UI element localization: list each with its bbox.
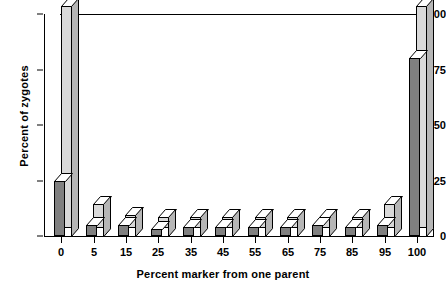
bar-front-cap-65: [280, 219, 300, 229]
bar-back-side-0: [71, 0, 80, 238]
bar-front-cap-45: [215, 219, 235, 229]
x-tick-mark-95: [385, 237, 386, 243]
x-tick-label-85: 85: [346, 246, 358, 258]
x-tick-label-0: 0: [58, 246, 64, 258]
x-tick-label-5: 5: [91, 246, 97, 258]
bar-front-cap-5: [86, 217, 106, 227]
bar-front-0: [54, 181, 65, 237]
bar-front-cap-15: [118, 217, 138, 227]
bar-front-cap-95: [377, 217, 397, 227]
x-tick-mark-45: [223, 237, 224, 243]
x-tick-label-35: 35: [185, 246, 197, 258]
y-tick-mark-0: [37, 236, 43, 237]
x-tick-mark-65: [288, 237, 289, 243]
bar-front-cap-85: [345, 219, 365, 229]
x-tick-mark-0: [61, 237, 62, 243]
y-tick-mark-50: [37, 125, 43, 126]
frame-top: [60, 14, 434, 15]
x-tick-label-55: 55: [249, 246, 261, 258]
axis-left-spine: [44, 14, 45, 237]
x-tick-mark-100: [417, 237, 418, 243]
x-tick-mark-35: [191, 237, 192, 243]
x-tick-label-100: 100: [408, 246, 426, 258]
x-tick-label-45: 45: [217, 246, 229, 258]
y-tick-mark-75: [37, 69, 43, 70]
x-tick-label-75: 75: [314, 246, 326, 258]
bar-chart: Percent of zygotes 100 75 50 25 0 051525…: [0, 0, 446, 293]
bar-face: [54, 181, 65, 237]
bar-back-side-100: [426, 0, 435, 238]
y-axis-title: Percent of zygotes: [18, 36, 30, 196]
bar-front-cap-75: [312, 217, 332, 227]
bar-front-100: [409, 58, 420, 236]
x-tick-label-65: 65: [282, 246, 294, 258]
x-tick-mark-75: [320, 237, 321, 243]
bar-front-cap-0: [54, 173, 74, 183]
x-tick-label-15: 15: [120, 246, 132, 258]
bar-front-cap-25: [151, 221, 171, 231]
x-tick-label-25: 25: [152, 246, 164, 258]
y-tick-mark-100: [37, 14, 43, 15]
x-tick-mark-55: [255, 237, 256, 243]
x-tick-label-95: 95: [379, 246, 391, 258]
bar-face: [409, 58, 420, 236]
bar-front-cap-35: [183, 219, 203, 229]
x-tick-mark-5: [94, 237, 95, 243]
y-tick-mark-25: [37, 180, 43, 181]
x-tick-mark-25: [158, 237, 159, 243]
x-tick-mark-85: [352, 237, 353, 243]
bar-front-cap-55: [248, 219, 268, 229]
x-tick-mark-15: [126, 237, 127, 243]
x-axis-title: Percent marker from one parent: [0, 268, 446, 280]
bar-front-cap-100: [409, 50, 429, 60]
